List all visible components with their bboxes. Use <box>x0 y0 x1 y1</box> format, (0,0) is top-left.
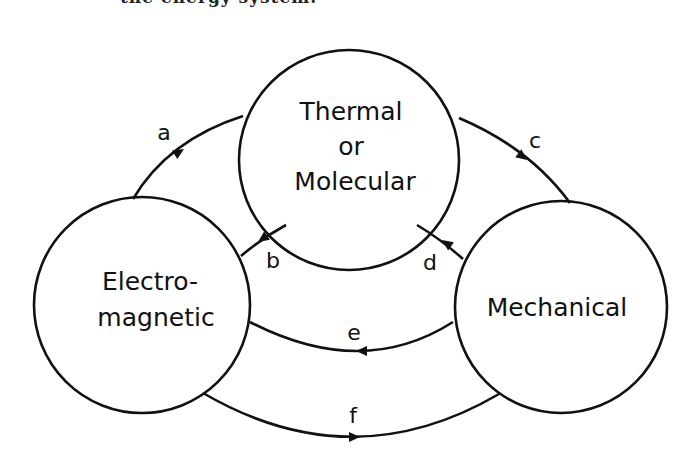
edge-f-label: f <box>349 403 358 428</box>
edge-c-path <box>459 118 570 203</box>
node-electromagnetic-label-line1: Electro- <box>102 267 198 296</box>
node-thermal-label-line2: or <box>338 132 364 161</box>
truncated-header-text: the energy system. <box>120 0 317 7</box>
diagram-canvas: Thermal or Molecular Electro- magnetic M… <box>0 0 689 469</box>
edge-a-label: a <box>157 120 170 145</box>
edge-f-arrowhead-icon <box>349 432 360 442</box>
edge-e-label: e <box>347 320 361 345</box>
energy-conversion-diagram: the energy system. <box>0 0 689 469</box>
edge-a-path <box>133 116 243 199</box>
node-thermal-label-line1: Thermal <box>299 97 403 126</box>
node-electromagnetic-label-line2: magnetic <box>97 303 214 332</box>
edge-d-label: d <box>423 250 437 275</box>
node-mechanical-label: Mechanical <box>487 293 628 322</box>
node-thermal-label-line3: Molecular <box>294 167 416 196</box>
edge-e-arrowhead-icon <box>356 346 367 356</box>
edge-c-label: c <box>529 128 541 153</box>
edge-b-label: b <box>266 248 280 273</box>
